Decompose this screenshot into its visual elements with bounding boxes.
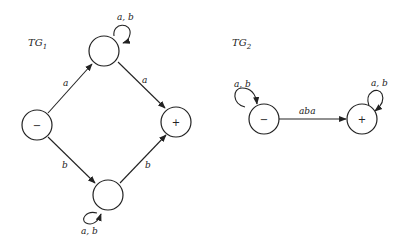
tg1-loop-label: a, b: [81, 226, 98, 236]
tg1-edge-label: b: [145, 160, 151, 170]
tg1-diagram: TG1 a a b b a, b a, b − +: [22, 12, 191, 236]
tg1-final-symbol: +: [172, 117, 180, 128]
tg2-diagram: TG2 a, b aba a, b − +: [232, 37, 388, 134]
tg1-node-top: [89, 36, 119, 66]
tg1-edge-top-final: [118, 62, 165, 108]
tg1-edge-label: b: [62, 160, 68, 170]
tg1-node-bottom: [93, 180, 123, 210]
tg1-title: TG1: [28, 37, 47, 51]
tg1-loop-bottom: [84, 212, 101, 224]
tg1-edge-start-bottom: [48, 137, 95, 183]
tg1-edge-label: a: [63, 78, 68, 88]
transition-graphs: TG1 a a b b a, b a, b − + TG2 a, b aba a…: [0, 0, 407, 246]
tg2-title: TG2: [232, 37, 252, 51]
tg1-edge-bottom-final: [120, 135, 166, 183]
tg1-edge-label: a: [142, 75, 147, 85]
tg2-edge-label: aba: [299, 106, 316, 116]
tg1-start-symbol: −: [33, 120, 41, 131]
tg2-start-symbol: −: [260, 114, 268, 125]
tg2-loop-start: [235, 88, 257, 107]
tg2-final-symbol: +: [358, 114, 366, 125]
tg2-loop-label: a, b: [371, 78, 388, 88]
tg1-loop-top: [114, 25, 130, 43]
tg2-loop-label: a, b: [234, 79, 251, 89]
tg1-edge-start-top: [48, 64, 92, 113]
tg1-loop-label: a, b: [117, 12, 134, 22]
